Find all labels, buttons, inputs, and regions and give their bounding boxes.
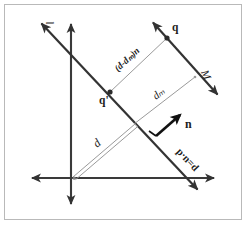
segment-d-label: d — [90, 135, 104, 150]
line-M-label: M — [199, 67, 214, 82]
segment-dM-endpoint-dot — [194, 76, 197, 79]
normal-vector-n-base-tick — [149, 131, 156, 136]
segment-d-minus-dM-n-label: (d-dₘ)n — [113, 45, 143, 74]
line-M: M — [153, 23, 218, 95]
normal-vector-n: n — [149, 115, 192, 136]
point-q-label: q — [172, 21, 179, 34]
normal-vector-n-label: n — [185, 117, 192, 131]
segment-d-origin-dot — [73, 177, 76, 180]
segment-dM-label: dₘ — [150, 84, 167, 101]
segment-d-stroke-a — [73, 124, 135, 177]
point-q-prime-label: q' — [99, 94, 109, 107]
line-M-stroke — [153, 23, 218, 95]
figure-root: l M (d-dₘ)n dₘ d q — [0, 0, 246, 225]
diagram-canvas: l M (d-dₘ)n dₘ d q — [0, 0, 246, 225]
point-q-dot — [164, 35, 169, 40]
line-l-stroke — [42, 24, 198, 190]
segment-d-minus-dM-n: (d-dₘ)n — [110, 38, 167, 92]
segment-d: d — [73, 124, 138, 180]
segment-d-stroke-b — [76, 127, 138, 180]
line-l-label: l — [44, 21, 56, 26]
normal-vector-n-shaft — [156, 115, 180, 136]
point-q: q — [164, 21, 179, 41]
